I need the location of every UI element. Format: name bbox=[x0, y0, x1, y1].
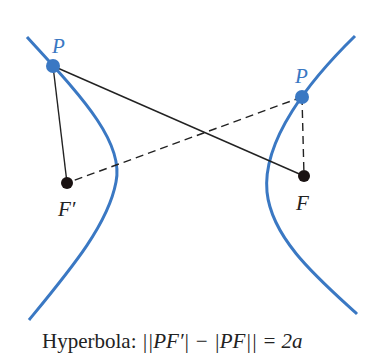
label-p-right: P bbox=[294, 64, 308, 88]
segment-p-left-to-f-prime bbox=[53, 66, 67, 183]
segment-p-right-to-f bbox=[302, 97, 304, 176]
label-f: F bbox=[295, 191, 309, 215]
hyperbola-diagram: P P F′ F Hyperbola: ||PF′| − |PF|| = 2a bbox=[0, 0, 386, 358]
right-branch-curve bbox=[267, 36, 357, 314]
caption: Hyperbola: ||PF′| − |PF|| = 2a bbox=[42, 329, 303, 353]
label-p-left: P bbox=[51, 34, 65, 58]
caption-formula: ||PF′| − |PF|| = 2a bbox=[142, 329, 303, 353]
focus-f-prime-point bbox=[61, 177, 73, 189]
segment-p-left-to-f bbox=[53, 66, 304, 176]
caption-prefix: Hyperbola: bbox=[42, 329, 142, 353]
focus-f-point bbox=[298, 170, 310, 182]
point-p-right bbox=[295, 90, 309, 104]
left-branch-curve bbox=[27, 37, 117, 320]
point-p-left bbox=[46, 59, 60, 73]
label-f-prime: F′ bbox=[57, 197, 76, 221]
